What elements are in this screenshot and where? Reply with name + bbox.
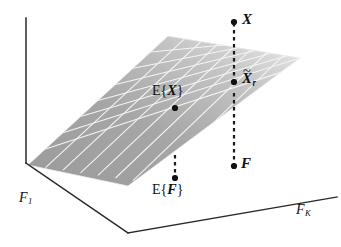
label-ef-operator: E	[152, 182, 161, 197]
tilde-icon: ~	[243, 64, 251, 78]
axis-label-fk: FK	[296, 203, 311, 218]
axis-label-fk-base: F	[296, 202, 305, 217]
label-xr-subscript: r	[252, 78, 256, 88]
label-x-tilde-r: X~r	[242, 71, 256, 88]
label-expectation-x: E{X}	[152, 84, 183, 98]
point-marker-x	[231, 19, 237, 25]
subspace-plane	[28, 36, 315, 186]
label-ex-close-brace: }	[177, 83, 184, 98]
label-expectation-f: E{F}	[152, 183, 183, 197]
label-ex-operator: E	[152, 83, 161, 98]
label-ex-inner: X	[167, 83, 176, 98]
label-f-text: F	[241, 155, 251, 171]
label-ef-close-brace: }	[177, 182, 184, 197]
point-marker-f	[231, 163, 237, 169]
diagram-vector-layer	[0, 0, 341, 247]
label-f: F	[241, 156, 251, 171]
axis-label-fk-subscript: K	[305, 208, 311, 218]
label-x: X	[242, 12, 252, 27]
axis-label-f1: F1	[19, 191, 32, 206]
label-x-text: X	[242, 11, 252, 27]
figure-canvas: X X~r E{X} F E{F} F1 FK	[0, 0, 341, 247]
axis-label-f1-base: F	[19, 190, 28, 205]
label-x-tilde-glyph: X~	[242, 71, 252, 86]
point-marker-ex	[172, 105, 178, 111]
label-ef-inner: F	[167, 182, 176, 197]
axis-label-f1-subscript: 1	[28, 196, 32, 206]
point-marker-xr	[231, 79, 237, 85]
point-marker-ef	[172, 175, 178, 181]
